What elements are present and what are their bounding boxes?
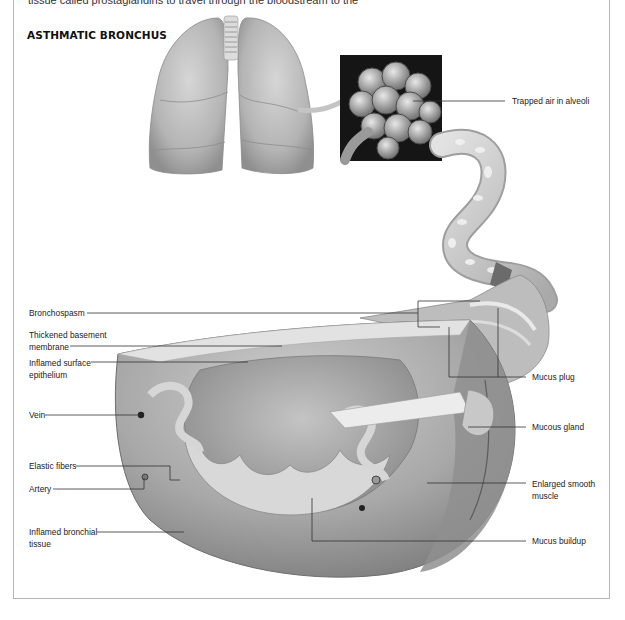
label-vein: Vein <box>29 409 45 421</box>
bronchus-cross-section <box>115 320 515 577</box>
label-line: muscle <box>532 490 595 502</box>
label-mucus-buildup: Mucus buildup <box>532 535 586 547</box>
label-line: Inflamed bronchial <box>29 526 97 538</box>
label-mucous-gland: Mucous gland <box>532 421 584 433</box>
label-mucus-plug: Mucus plug <box>532 371 575 383</box>
lungs-illustration <box>149 16 345 174</box>
label-line: tissue <box>29 538 97 550</box>
label-trapped-air-in-alveoli: Trapped air in alveoli <box>512 95 589 107</box>
label-line: epithelium <box>29 369 91 381</box>
label-enlarged-smooth-muscle: Enlarged smooth muscle <box>532 478 595 502</box>
label-line: Enlarged smooth <box>532 478 595 490</box>
label-thickened-basement-membrane: Thickened basement membrane <box>29 329 107 353</box>
label-artery: Artery <box>29 483 51 495</box>
alveoli-inset <box>340 55 442 161</box>
label-line: Inflamed surface <box>29 357 91 369</box>
label-line: Thickened basement <box>29 329 107 341</box>
label-elastic-fibers: Elastic fibers <box>29 460 76 472</box>
label-line: membrane <box>29 341 107 353</box>
label-inflamed-bronchial-tissue: Inflamed bronchial tissue <box>29 526 97 550</box>
label-bronchospasm: Bronchospasm <box>29 307 85 319</box>
label-inflamed-surface-epithelium: Inflamed surface epithelium <box>29 357 91 381</box>
